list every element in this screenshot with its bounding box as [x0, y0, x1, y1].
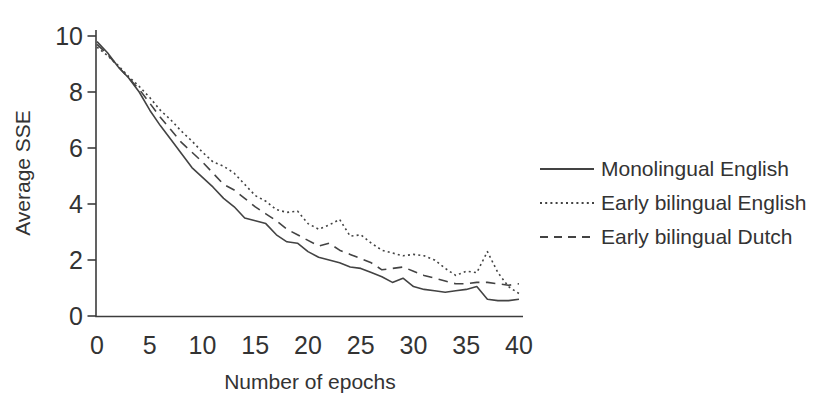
dotted-line-swatch-icon — [540, 197, 594, 209]
legend-label: Early bilingual Dutch — [601, 225, 792, 249]
y-tick-label: 8 — [69, 78, 83, 106]
solid-line-swatch-icon — [540, 163, 594, 175]
figure: 0246810 0510152025303540 Average SSE Num… — [0, 0, 830, 410]
y-tick-label: 6 — [69, 134, 83, 162]
y-axis-title: Average SSE — [11, 110, 34, 236]
series-lines — [97, 42, 519, 301]
x-tick-label: 30 — [400, 331, 428, 359]
legend-item-monolingual-english: Monolingual English — [540, 152, 806, 186]
series-line-early-bilingual-dutch — [97, 44, 519, 285]
legend-item-early-bilingual-english: Early bilingual English — [540, 186, 806, 220]
x-tick-label: 10 — [189, 331, 217, 359]
legend: Monolingual English Early bilingual Engl… — [540, 152, 806, 254]
dashed-line-swatch-icon — [540, 231, 594, 243]
y-tick-label: 2 — [69, 246, 83, 274]
x-axis-title: Number of epochs — [224, 370, 396, 393]
series-line-early-bilingual-english — [97, 47, 519, 293]
x-tick-label: 15 — [241, 331, 269, 359]
y-tick-label: 4 — [69, 190, 83, 218]
legend-item-early-bilingual-dutch: Early bilingual Dutch — [540, 220, 806, 254]
y-tick-label: 0 — [69, 302, 83, 330]
x-tick-label: 25 — [347, 331, 375, 359]
legend-label: Monolingual English — [601, 157, 789, 181]
series-line-monolingual-english — [97, 42, 519, 301]
x-tick-label: 35 — [452, 331, 480, 359]
legend-label: Early bilingual English — [601, 191, 806, 215]
x-tick-label: 5 — [143, 331, 157, 359]
x-tick-label: 0 — [90, 331, 104, 359]
y-axis-ticks: 0246810 — [55, 22, 96, 330]
x-tick-label: 20 — [294, 331, 322, 359]
y-tick-label: 10 — [55, 22, 83, 50]
x-tick-label: 40 — [505, 331, 533, 359]
x-axis-tick-labels: 0510152025303540 — [90, 331, 533, 359]
